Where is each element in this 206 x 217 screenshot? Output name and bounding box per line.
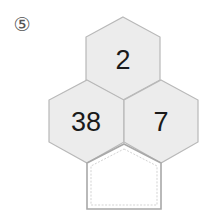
hexagon-top-value: 2	[115, 45, 130, 75]
hexagon-middle-left-value: 38	[71, 107, 101, 137]
hexagon-middle-right-value: 7	[153, 107, 168, 137]
hexagon-puzzle: 2 38 7	[0, 0, 206, 217]
